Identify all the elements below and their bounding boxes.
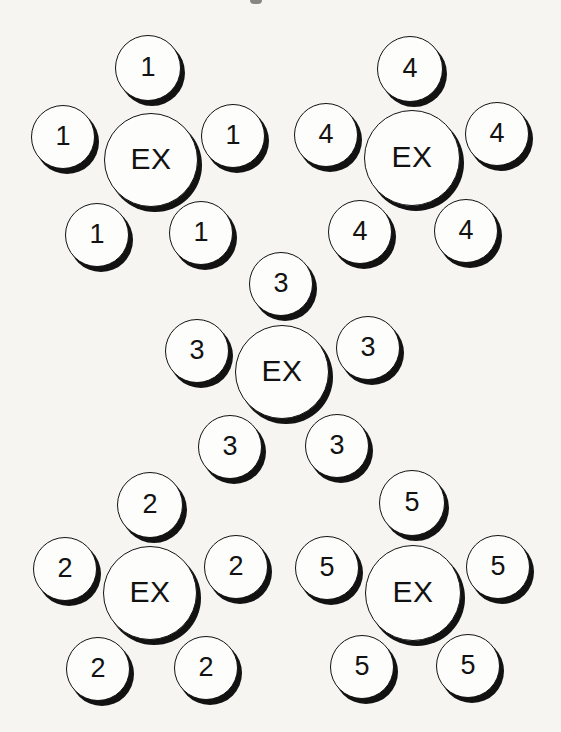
subscriber-circle-2-right: 2 — [204, 535, 268, 599]
subscriber-circle-3-bottom-right-label: 3 — [329, 432, 344, 459]
exchange-hub-circle-1-label: EX — [130, 144, 171, 174]
subscriber-circle-3-bottom-left-label: 3 — [222, 433, 237, 460]
subscriber-circle-2-bottom-right: 2 — [174, 636, 238, 700]
subscriber-circle-1-right-label: 1 — [225, 122, 240, 149]
subscriber-circle-5-top: 5 — [379, 470, 445, 536]
scan-artifact — [250, 0, 262, 4]
subscriber-circle-3-bottom-right: 3 — [305, 414, 369, 478]
subscriber-circle-1-right: 1 — [201, 104, 265, 168]
subscriber-circle-4-bottom-left: 4 — [328, 200, 392, 264]
subscriber-circle-1-left: 1 — [31, 105, 95, 169]
subscriber-circle-4-bottom-right-label: 4 — [458, 217, 473, 244]
diagram-page: 11111EX44444EX33333EX22222EX55555EX — [0, 0, 561, 732]
subscriber-circle-1-bottom-left-label: 1 — [89, 221, 104, 248]
subscriber-circle-5-left: 5 — [295, 536, 359, 600]
subscriber-circle-2-left-label: 2 — [57, 555, 72, 582]
subscriber-circle-2-bottom-left: 2 — [66, 637, 130, 701]
subscriber-circle-4-left-label: 4 — [318, 121, 333, 148]
subscriber-circle-2-right-label: 2 — [228, 553, 243, 580]
subscriber-circle-5-bottom-right-label: 5 — [460, 652, 475, 679]
subscriber-circle-3-top-label: 3 — [273, 270, 288, 297]
exchange-hub-circle-1: EX — [104, 113, 198, 207]
exchange-hub-circle-4: EX — [364, 110, 460, 206]
subscriber-circle-5-bottom-left: 5 — [330, 635, 394, 699]
subscriber-circle-4-bottom-left-label: 4 — [352, 218, 367, 245]
exchange-hub-circle-2: EX — [103, 546, 197, 640]
subscriber-circle-4-right-label: 4 — [489, 120, 504, 147]
subscriber-circle-5-right-label: 5 — [490, 553, 505, 580]
exchange-hub-circle-3-label: EX — [261, 356, 302, 386]
exchange-hub-circle-3: EX — [235, 325, 329, 419]
subscriber-circle-4-bottom-right: 4 — [434, 199, 498, 263]
subscriber-circle-3-bottom-left: 3 — [198, 415, 262, 479]
subscriber-circle-4-top-label: 4 — [402, 55, 417, 82]
subscriber-circle-4-top: 4 — [377, 36, 443, 102]
subscriber-circle-2-bottom-right-label: 2 — [198, 654, 213, 681]
subscriber-circle-3-right: 3 — [336, 316, 400, 380]
subscriber-circle-3-left-label: 3 — [189, 337, 204, 364]
subscriber-circle-2-top: 2 — [117, 472, 183, 538]
exchange-hub-circle-4-label: EX — [391, 142, 432, 172]
subscriber-circle-2-bottom-left-label: 2 — [90, 655, 105, 682]
exchange-hub-circle-2-label: EX — [129, 577, 170, 607]
subscriber-circle-1-bottom-left: 1 — [65, 203, 129, 267]
subscriber-circle-5-right: 5 — [466, 535, 530, 599]
exchange-hub-circle-5-label: EX — [392, 577, 433, 607]
subscriber-circle-1-top: 1 — [115, 35, 181, 101]
subscriber-circle-2-left: 2 — [33, 537, 97, 601]
subscriber-circle-2-top-label: 2 — [142, 491, 157, 518]
exchange-hub-circle-5: EX — [365, 545, 461, 641]
subscriber-circle-3-left: 3 — [165, 319, 229, 383]
subscriber-circle-1-left-label: 1 — [55, 123, 70, 150]
subscriber-circle-1-bottom-right: 1 — [169, 201, 233, 265]
subscriber-circle-1-top-label: 1 — [140, 54, 155, 81]
subscriber-circle-3-right-label: 3 — [360, 334, 375, 361]
subscriber-circle-4-right: 4 — [465, 102, 529, 166]
subscriber-circle-1-bottom-right-label: 1 — [193, 219, 208, 246]
subscriber-circle-5-bottom-left-label: 5 — [354, 653, 369, 680]
subscriber-circle-5-left-label: 5 — [319, 554, 334, 581]
subscriber-circle-3-top: 3 — [249, 252, 313, 316]
subscriber-circle-5-bottom-right: 5 — [436, 634, 500, 698]
subscriber-circle-5-top-label: 5 — [404, 489, 419, 516]
subscriber-circle-4-left: 4 — [294, 103, 358, 167]
